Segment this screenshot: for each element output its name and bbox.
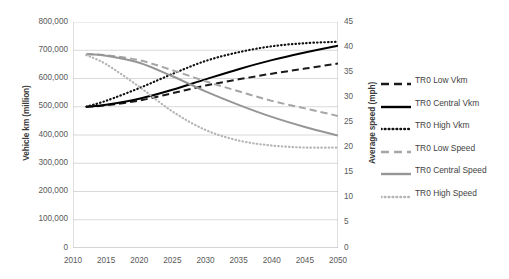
series-canvas — [73, 22, 338, 248]
legend-swatch-icon — [381, 98, 411, 108]
legend-label: TR0 Central Vkm — [415, 98, 479, 108]
plot-area — [73, 22, 338, 248]
legend-swatch-icon — [381, 143, 411, 153]
legend-label: TR0 Low Speed — [415, 143, 475, 153]
legend-item[interactable]: TR0 High Speed — [381, 182, 507, 205]
legend-label: TR0 Low Vkm — [415, 75, 468, 85]
legend-label: TR0 Central Speed — [415, 165, 487, 175]
legend-label: TR0 High Vkm — [415, 120, 469, 130]
legend-item[interactable]: TR0 Central Vkm — [381, 92, 507, 115]
legend-item[interactable]: TR0 Central Speed — [381, 159, 507, 182]
chart-legend: TR0 Low VkmTR0 Central VkmTR0 High VkmTR… — [381, 69, 507, 209]
series-line-0 — [86, 64, 338, 107]
legend-swatch-icon — [381, 120, 411, 130]
chart-figure: Vehicle km (million) Average speed (mph)… — [0, 0, 509, 279]
x-axis-tick-label: 2050 — [318, 256, 358, 265]
legend-item[interactable]: TR0 Low Vkm — [381, 69, 507, 92]
legend-item[interactable]: TR0 High Vkm — [381, 114, 507, 137]
legend-swatch-icon — [381, 165, 411, 175]
legend-swatch-icon — [381, 75, 411, 85]
series-line-2 — [86, 42, 338, 107]
legend-swatch-icon — [381, 188, 411, 198]
legend-item[interactable]: TR0 Low Speed — [381, 137, 507, 160]
legend-label: TR0 High Speed — [415, 188, 477, 198]
